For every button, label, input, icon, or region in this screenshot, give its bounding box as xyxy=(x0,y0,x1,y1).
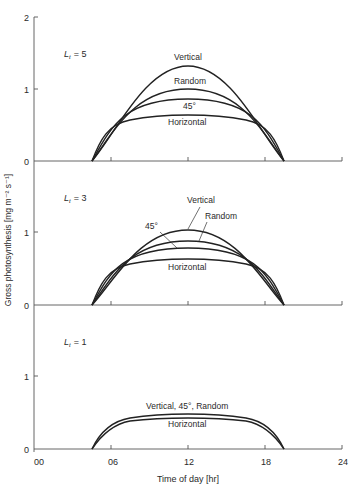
x-tick-24: 24 xyxy=(338,457,348,467)
y-tick-0: 0 xyxy=(24,301,29,311)
y-tick-1: 1 xyxy=(24,228,29,238)
y-axis-label: Gross photosynthesis [mg m⁻² s⁻¹] xyxy=(3,174,13,306)
label-vertical: Vertical xyxy=(174,52,202,62)
panel-lt5: 2 1 0 Lt= 5 Vertical Random 45° Horizont… xyxy=(24,13,342,167)
lt-label-panel1: Lt= 5 xyxy=(64,49,86,60)
x-tick-06: 06 xyxy=(108,457,118,467)
panel-lt3: 1 0 Lt= 3 Vertical Random 45° Horizontal xyxy=(24,193,342,311)
x-axis-label: Time of day [hr] xyxy=(157,474,219,484)
y-tick-2: 2 xyxy=(24,13,29,23)
label-horizontal: Horizontal xyxy=(168,262,206,272)
lt-label-panel3: Lt= 1 xyxy=(64,337,86,348)
label-horizontal: Horizontal xyxy=(168,419,206,429)
y-tick-0: 0 xyxy=(24,445,29,455)
label-random: Random xyxy=(205,211,237,221)
curve-random xyxy=(92,241,284,305)
x-tick-00: 00 xyxy=(34,457,44,467)
photosynthesis-chart: Gross photosynthesis [mg m⁻² s⁻¹] 2 1 0 … xyxy=(0,0,359,486)
x-tick-12: 12 xyxy=(184,457,194,467)
label-45deg: 45° xyxy=(145,221,158,231)
y-tick-0: 0 xyxy=(24,157,29,167)
y-tick-1: 1 xyxy=(24,372,29,382)
x-tick-18: 18 xyxy=(261,457,271,467)
lt-label-panel2: Lt= 3 xyxy=(64,193,86,204)
label-random: Random xyxy=(174,76,206,86)
label-combined: Vertical, 45°, Random xyxy=(146,401,228,411)
label-horizontal: Horizontal xyxy=(168,117,206,127)
label-45deg: 45° xyxy=(183,101,196,111)
label-vertical: Vertical xyxy=(187,195,215,205)
panel-lt1: 1 0 Lt= 1 Vertical, 45°, Random Horizont… xyxy=(24,337,342,455)
y-tick-1: 1 xyxy=(24,85,29,95)
curve-45deg xyxy=(92,248,284,305)
